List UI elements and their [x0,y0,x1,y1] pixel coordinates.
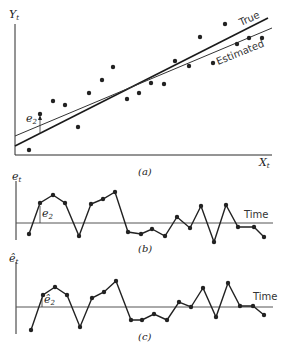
true-regression-line [15,18,268,146]
residual-series [29,192,264,242]
time-label: Time [243,209,268,220]
panel-c: êt Time ê2 (c) [9,252,277,342]
residual-e2-label: e2 [42,207,54,221]
estimated-residual-series [31,281,264,330]
y-axis-label: êt [9,252,19,266]
caption-b: (b) [138,243,152,254]
scatter-points [27,22,264,152]
true-line-label: True [236,9,261,28]
regression-residual-figure: Yt Xt True Estimated e2 (a) et Time e2 [0,0,285,346]
series-points [27,190,266,244]
y-axis-label: et [12,170,22,184]
panel-b: et Time e2 (b) [12,170,273,254]
caption-c: (c) [138,331,152,342]
y-axis-label: Yt [9,8,19,22]
residual-e2-label: e2 [26,112,38,126]
estimated-regression-line [15,28,272,136]
time-label: Time [252,291,277,302]
caption-a: (a) [138,166,152,177]
panel-a: Yt Xt True Estimated e2 (a) [9,8,272,177]
x-axis-label: Xt [258,156,270,170]
residual-e2-label: ê2 [44,293,56,307]
estimated-line-label: Estimated [215,38,266,67]
